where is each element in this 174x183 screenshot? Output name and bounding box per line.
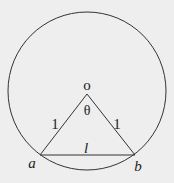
point-a-label: a: [28, 155, 36, 171]
point-b-label: b: [134, 158, 142, 174]
side-label-right: 1: [113, 116, 121, 132]
side-ob: [87, 94, 135, 155]
diagram-canvas: o θ 1 1 l a b: [0, 0, 174, 183]
chord-label: l: [84, 140, 88, 156]
circle-chord-diagram: o θ 1 1 l a b: [0, 0, 174, 183]
side-oa: [40, 94, 87, 155]
center-label: o: [83, 77, 91, 93]
side-label-left: 1: [51, 116, 59, 132]
angle-label: θ: [84, 103, 91, 118]
